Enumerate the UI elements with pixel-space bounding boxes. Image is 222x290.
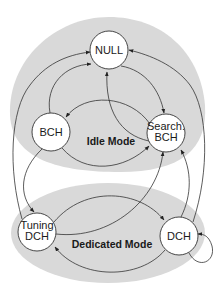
state-diagram: NULL BCH Search. BCH Tuning DCH DCH Idle… [0,0,222,290]
idle-mode-label: Idle Mode [87,135,136,147]
node-tuning-dch-label-line2: DCH [25,230,49,242]
node-null: NULL [90,31,128,69]
node-null-label: NULL [95,44,123,56]
dedicated-mode-label: Dedicated Mode [72,238,153,250]
node-bch-label: BCH [39,126,62,138]
node-tuning-dch: Tuning DCH [18,213,56,251]
node-dch: DCH [160,217,198,255]
node-dch-label: DCH [167,230,191,242]
node-search-bch: Search. BCH [147,114,185,152]
node-search-bch-label-line2: BCH [154,131,177,143]
node-bch: BCH [32,113,70,151]
